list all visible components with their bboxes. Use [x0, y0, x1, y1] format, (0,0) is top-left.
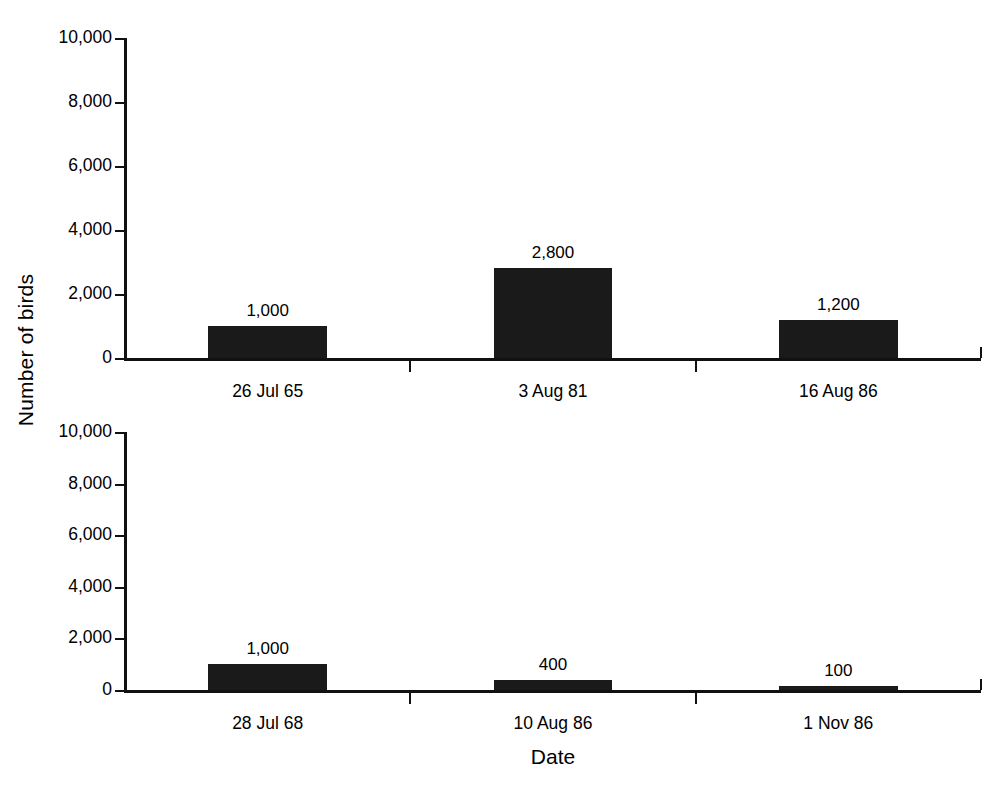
y-axis-tick — [115, 690, 125, 692]
y-axis-tick-label: 0 — [0, 349, 112, 367]
y-axis-tick — [115, 484, 125, 486]
x-axis-line — [124, 358, 981, 361]
y-axis-tick — [115, 102, 125, 104]
y-axis-tick-label: 10,000 — [0, 29, 112, 47]
y-axis-tick — [115, 535, 125, 537]
x-axis-tick — [695, 361, 697, 372]
y-axis-tick-label: 2,000 — [0, 285, 112, 303]
bar-value-label: 2,800 — [410, 243, 695, 263]
y-axis-tick — [115, 358, 125, 360]
bar — [779, 320, 897, 358]
x-axis-category-label: 28 Jul 68 — [125, 713, 410, 734]
y-axis-tick — [115, 432, 125, 434]
bar-value-label: 100 — [696, 661, 981, 681]
x-axis-category-label: 16 Aug 86 — [696, 381, 981, 402]
y-axis-tick — [115, 294, 125, 296]
x-axis-title: Date — [125, 745, 981, 769]
y-axis-tick-label: 4,000 — [0, 221, 112, 239]
bar — [208, 664, 326, 690]
x-axis-tick — [980, 347, 982, 358]
bar-value-label: 1,000 — [125, 301, 410, 321]
y-axis-tick — [115, 38, 125, 40]
bar-value-label: 400 — [410, 655, 695, 675]
x-axis-tick — [409, 693, 411, 704]
y-axis-tick — [115, 638, 125, 640]
bar-value-label: 1,200 — [696, 295, 981, 315]
y-axis-tick-label: 8,000 — [0, 93, 112, 111]
y-axis-tick-label: 0 — [0, 681, 112, 699]
x-axis-tick — [124, 679, 126, 690]
bird-count-figure: Number of birds 02,0004,0006,0008,00010,… — [0, 0, 1006, 795]
bar — [494, 680, 612, 690]
x-axis-category-label: 1 Nov 86 — [696, 713, 981, 734]
x-axis-line — [124, 690, 981, 693]
x-axis-tick — [695, 693, 697, 704]
x-axis-category-label: 3 Aug 81 — [410, 381, 695, 402]
x-axis-tick — [409, 361, 411, 372]
y-axis-tick-label: 10,000 — [0, 423, 112, 441]
bar — [494, 268, 612, 358]
y-axis-tick-label: 6,000 — [0, 157, 112, 175]
bar — [208, 326, 326, 358]
y-axis-tick-label: 2,000 — [0, 629, 112, 647]
y-axis-tick — [115, 587, 125, 589]
y-axis-tick — [115, 166, 125, 168]
y-axis-tick-label: 4,000 — [0, 578, 112, 596]
bar-value-label: 1,000 — [125, 639, 410, 659]
y-axis-tick-label: 6,000 — [0, 526, 112, 544]
y-axis-tick — [115, 230, 125, 232]
x-axis-category-label: 26 Jul 65 — [125, 381, 410, 402]
y-axis-tick-label: 8,000 — [0, 475, 112, 493]
x-axis-category-label: 10 Aug 86 — [410, 713, 695, 734]
bar — [779, 686, 897, 690]
x-axis-tick — [124, 347, 126, 358]
